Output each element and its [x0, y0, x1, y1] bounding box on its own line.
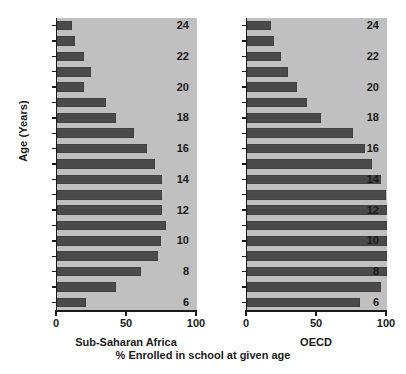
bar-age-10: [57, 236, 161, 246]
y-tick-16: [52, 148, 57, 149]
bar-fill: [57, 144, 147, 154]
y-tick-22: [242, 56, 247, 57]
y-tick-23: [242, 40, 247, 41]
x-tick-100: [385, 310, 386, 316]
bar-fill: [247, 21, 271, 31]
y-tick-label-22: 22: [165, 51, 189, 62]
y-tick-19: [242, 102, 247, 103]
y-tick-14: [242, 179, 247, 180]
bar-age-16: [247, 144, 365, 154]
x-tick-label-0: 0: [226, 318, 266, 329]
bar-age-20: [57, 82, 84, 92]
bar-age-19: [57, 98, 106, 108]
y-tick-15: [242, 163, 247, 164]
y-tick-10: [52, 240, 57, 241]
y-tick-10: [242, 240, 247, 241]
y-tick-11: [52, 225, 57, 226]
bar-age-15: [57, 159, 155, 169]
bar-fill: [57, 175, 162, 185]
bar-fill: [57, 267, 141, 277]
y-tick-17: [242, 133, 247, 134]
y-tick-label-16: 16: [355, 143, 379, 154]
bar-age-13: [247, 190, 386, 200]
x-tick-0: [55, 310, 56, 316]
y-tick-18: [52, 117, 57, 118]
y-tick-16: [242, 148, 247, 149]
bar-age-7: [247, 282, 381, 292]
bar-age-7: [57, 282, 116, 292]
bar-fill: [57, 98, 106, 108]
x-tick-label-100: 100: [176, 318, 216, 329]
bar-fill: [57, 251, 158, 261]
bar-fill: [57, 128, 134, 138]
y-tick-label-22: 22: [355, 51, 379, 62]
bar-fill: [57, 159, 155, 169]
y-tick-7: [52, 286, 57, 287]
y-tick-8: [242, 271, 247, 272]
bar-age-6: [247, 298, 360, 308]
x-tick-0: [245, 310, 246, 316]
y-tick-label-10: 10: [355, 235, 379, 246]
bar-age-8: [57, 267, 141, 277]
panel-title-right: OECD: [236, 336, 396, 348]
bar-fill: [57, 67, 91, 77]
figure-caption: % Enrolled in school at given age: [0, 349, 406, 361]
bar-fill: [247, 251, 387, 261]
y-tick-label-6: 6: [165, 297, 189, 308]
bar-fill: [57, 205, 162, 215]
panel-title-left: Sub-Saharan Africa: [46, 336, 206, 348]
y-tick-14: [52, 179, 57, 180]
bar-age-11: [247, 221, 387, 231]
y-tick-7: [242, 286, 247, 287]
bar-age-23: [57, 36, 75, 46]
bar-fill: [247, 36, 274, 46]
x-tick-50: [315, 310, 316, 316]
y-tick-label-20: 20: [165, 82, 189, 93]
y-tick-23: [52, 40, 57, 41]
y-tick-label-14: 14: [165, 174, 189, 185]
y-tick-6: [52, 302, 57, 303]
x-tick-100: [195, 310, 196, 316]
bar-fill: [57, 82, 84, 92]
y-tick-label-8: 8: [165, 266, 189, 277]
bar-age-20: [247, 82, 297, 92]
y-tick-label-10: 10: [165, 235, 189, 246]
y-tick-label-18: 18: [355, 112, 379, 123]
bar-fill: [57, 282, 116, 292]
bar-fill: [247, 128, 353, 138]
bar-age-21: [57, 67, 91, 77]
y-tick-19: [52, 102, 57, 103]
bar-age-17: [247, 128, 353, 138]
y-tick-9: [242, 256, 247, 257]
bar-age-14: [57, 175, 162, 185]
bar-age-18: [247, 113, 321, 123]
bar-fill: [247, 144, 365, 154]
y-tick-label-12: 12: [165, 205, 189, 216]
y-tick-13: [242, 194, 247, 195]
panel-sub-saharan-africa: Sub-Saharan Africa 242220181614121086050…: [56, 18, 197, 310]
bar-age-24: [247, 21, 271, 31]
y-tick-label-24: 24: [165, 20, 189, 31]
bar-fill: [57, 236, 161, 246]
bar-fill: [57, 190, 162, 200]
y-tick-9: [52, 256, 57, 257]
bar-age-21: [247, 67, 288, 77]
bar-fill: [247, 98, 307, 108]
bar-fill: [247, 159, 372, 169]
y-tick-11: [242, 225, 247, 226]
bar-fill: [57, 113, 116, 123]
y-tick-22: [52, 56, 57, 57]
y-tick-8: [52, 271, 57, 272]
y-tick-label-8: 8: [355, 266, 379, 277]
y-tick-label-14: 14: [355, 174, 379, 185]
y-tick-label-12: 12: [355, 205, 379, 216]
y-tick-24: [52, 25, 57, 26]
bar-age-9: [247, 251, 387, 261]
y-tick-15: [52, 163, 57, 164]
figure-root: Age (Years) Sub-Saharan Africa 242220181…: [0, 0, 406, 374]
bar-age-11: [57, 221, 166, 231]
y-tick-label-6: 6: [355, 297, 379, 308]
bar-age-17: [57, 128, 134, 138]
panel-oecd: OECD 242220181614121086050100: [246, 18, 387, 310]
x-tick-50: [125, 310, 126, 316]
